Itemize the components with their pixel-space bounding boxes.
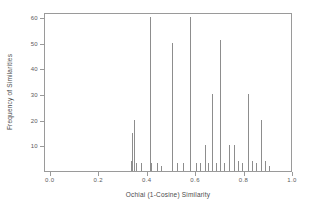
spike-bar (151, 163, 152, 171)
spike-bar (224, 163, 225, 171)
x-tick-label: 0.6 (190, 177, 200, 183)
y-tick (40, 44, 44, 45)
x-tick (98, 172, 99, 176)
spike-bar (205, 145, 206, 171)
chart-figure: 0.00.20.40.60.81.0 102030405060 Ochiai (… (0, 0, 310, 209)
spike-bar (161, 166, 162, 171)
spike-bar (269, 166, 270, 171)
spike-bar (200, 163, 201, 171)
x-tick (292, 172, 293, 176)
plot-area (44, 13, 292, 172)
spike-bar (248, 94, 249, 171)
spike-bar (141, 163, 142, 171)
spike-series (45, 14, 291, 171)
x-tick-label: 1.0 (287, 177, 297, 183)
spike-bar (265, 161, 266, 171)
y-tick (40, 18, 44, 19)
spike-bar (136, 163, 137, 171)
spike-bar (229, 145, 230, 171)
spike-bar (132, 133, 133, 171)
y-axis-label: Frequency of Similarities (6, 54, 13, 130)
x-tick-label: 0.0 (45, 177, 55, 183)
spike-bar (196, 163, 197, 171)
x-axis-label: Ochiai (1-Cosine) Similarity (126, 191, 210, 198)
x-tick (244, 172, 245, 176)
x-tick (195, 172, 196, 176)
y-tick-label: 40 (31, 66, 38, 72)
x-tick-label: 0.2 (93, 177, 103, 183)
y-tick-label: 50 (31, 41, 38, 47)
spike-bar (172, 43, 173, 171)
y-tick (40, 95, 44, 96)
y-tick (40, 121, 44, 122)
y-tick-label: 20 (31, 118, 38, 124)
spike-bar (242, 163, 243, 171)
spike-bar (234, 145, 235, 171)
y-tick (40, 69, 44, 70)
x-tick (147, 172, 148, 176)
y-tick-label: 10 (31, 143, 38, 149)
spike-bar (157, 163, 158, 171)
x-tick-label: 0.4 (142, 177, 152, 183)
x-tick-label: 0.8 (239, 177, 249, 183)
spike-bar (177, 163, 178, 171)
spike-bar (252, 161, 253, 171)
spike-bar (150, 17, 151, 171)
spike-bar (212, 94, 213, 171)
spike-bar (183, 163, 184, 171)
y-tick (40, 146, 44, 147)
y-tick-label: 60 (31, 15, 38, 21)
spike-bar (220, 40, 221, 171)
spike-bar (208, 163, 209, 171)
spike-bar (261, 120, 262, 171)
x-tick (50, 172, 51, 176)
spike-bar (190, 17, 191, 171)
spike-bar (238, 161, 239, 171)
spike-bar (216, 163, 217, 171)
spike-bar (256, 163, 257, 171)
y-tick-label: 30 (31, 92, 38, 98)
